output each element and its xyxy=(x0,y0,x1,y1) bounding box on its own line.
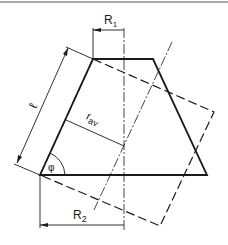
angle-label: φ xyxy=(48,162,55,173)
trapezoid-section xyxy=(40,59,207,175)
l-extension-top xyxy=(66,47,93,59)
l-dimension-line xyxy=(17,48,68,163)
r2-label: R2 xyxy=(73,208,87,224)
r2-arrow-icon xyxy=(40,223,48,227)
diagram-canvas: R1 R2 ℓ rav φ xyxy=(0,0,228,245)
l-arrow-bottom-icon xyxy=(17,155,22,163)
equivalent-rectangle xyxy=(40,59,214,226)
r1-label: R1 xyxy=(104,13,118,29)
r1-arrow-icon xyxy=(93,28,101,32)
rav-label: rav xyxy=(83,110,102,129)
tilted-axis xyxy=(94,42,172,210)
l-arrow-top-icon xyxy=(63,48,68,56)
length-label: ℓ xyxy=(26,101,40,110)
l-extension-bottom xyxy=(14,164,40,175)
